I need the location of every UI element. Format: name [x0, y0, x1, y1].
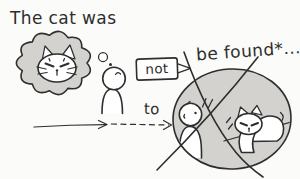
person-head: [103, 67, 126, 90]
searching-person-eye: [194, 112, 196, 114]
thought-bubble-small: [99, 53, 108, 62]
searching-person-head: [179, 103, 201, 125]
walking-arrow-solid: [34, 121, 107, 129]
caption-the-cat-was: The cat was: [9, 8, 116, 28]
person-body: [102, 89, 123, 114]
to-label: to: [144, 100, 160, 119]
walking-arrow-dashed: [112, 121, 172, 130]
not-callout: not: [136, 57, 191, 80]
comic-drawing: The cat was to not: [0, 0, 300, 179]
thinking-person: [102, 67, 125, 113]
searching-person-body: [179, 126, 202, 158]
thought-cloud: [16, 31, 112, 94]
comic-panel: The cat was to not: [0, 0, 300, 179]
not-label: not: [145, 60, 169, 77]
thought-bubble-dot: [109, 63, 112, 66]
arrowhead-dashed: [164, 121, 172, 130]
caption-be-found: be found*...: [195, 37, 300, 64]
